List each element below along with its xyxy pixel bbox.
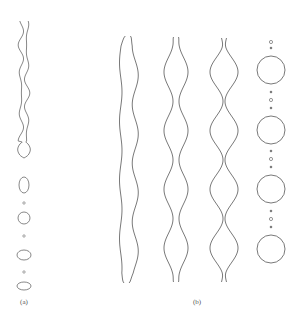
jet-left-edge bbox=[210, 38, 223, 282]
jet-breakup-figure bbox=[0, 0, 301, 322]
satellite-drop bbox=[23, 271, 25, 273]
jet-left-edge bbox=[18, 21, 24, 158]
jet-left-edge bbox=[120, 36, 126, 283]
satellite-drop bbox=[270, 150, 272, 152]
jet-right-edge bbox=[225, 38, 238, 282]
jet-right-edge bbox=[24, 21, 30, 158]
satellite-drop bbox=[23, 235, 25, 237]
satellite-drop bbox=[269, 217, 272, 220]
jet-near-breakup bbox=[210, 38, 238, 282]
jet-early bbox=[120, 36, 139, 283]
satellite-drop bbox=[270, 107, 272, 109]
panel-a-label: (a) bbox=[20, 298, 28, 306]
jet-left-edge bbox=[164, 37, 174, 282]
jet-right-edge bbox=[179, 37, 189, 282]
main-drop bbox=[257, 175, 285, 203]
satellite-drop bbox=[269, 40, 272, 43]
panel-b-label: (b) bbox=[193, 298, 201, 306]
oscillating-drop bbox=[17, 250, 31, 260]
satellite-drop bbox=[270, 210, 272, 212]
jet-right-edge bbox=[129, 36, 138, 283]
main-drop bbox=[257, 116, 285, 144]
jet-thin bbox=[18, 21, 31, 158]
satellite-drop bbox=[269, 157, 272, 160]
satellite-drop bbox=[270, 91, 272, 93]
satellite-drop bbox=[269, 98, 272, 101]
satellite-drop bbox=[23, 202, 25, 204]
oscillating-drop bbox=[19, 177, 29, 193]
satellite-drop bbox=[270, 47, 272, 49]
jet-intermediate bbox=[164, 37, 188, 282]
main-drop bbox=[257, 56, 285, 84]
oscillating-drop bbox=[17, 282, 31, 290]
main-drop bbox=[257, 235, 285, 263]
oscillating-drop bbox=[18, 212, 30, 224]
satellite-drop bbox=[270, 166, 272, 168]
panel-a bbox=[17, 21, 31, 290]
satellite-drop bbox=[270, 226, 272, 228]
panel-b bbox=[120, 36, 285, 283]
